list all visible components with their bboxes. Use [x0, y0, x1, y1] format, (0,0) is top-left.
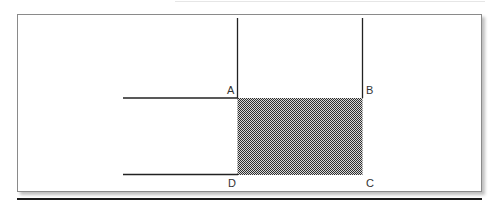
bottom-divider-line [17, 198, 482, 200]
label-d: D [228, 178, 236, 189]
label-b: B [366, 85, 373, 96]
diagram-canvas [0, 0, 498, 201]
label-a: A [227, 85, 234, 96]
label-c: C [366, 178, 374, 189]
shaded-rectangle-abcd [238, 98, 363, 175]
